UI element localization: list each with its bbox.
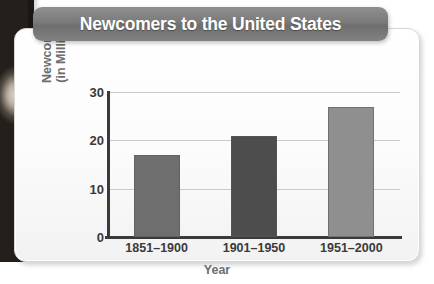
bar <box>134 155 180 237</box>
y-axis-tick-label: 20 <box>64 133 104 148</box>
bar <box>231 136 277 238</box>
y-axis-tick-label: 30 <box>64 85 104 100</box>
x-axis-tick-labels: 1851–19001901–19501951–2000 <box>108 241 400 261</box>
bar <box>328 107 374 238</box>
x-axis-tick-label: 1901–1950 <box>223 241 286 255</box>
chart-card: Newcomers (in Millions) 0102030 1851–190… <box>14 28 420 262</box>
chart-title-banner: Newcomers to the United States <box>33 7 388 41</box>
y-axis-tick-labels: 0102030 <box>62 92 104 237</box>
x-axis-tick-label: 1951–2000 <box>320 241 383 255</box>
y-axis-tick-label: 10 <box>64 181 104 196</box>
x-axis-title: Year <box>15 263 419 277</box>
x-axis-tick-label: 1851–1900 <box>125 241 188 255</box>
plot-area <box>108 92 400 237</box>
bar-group <box>108 92 400 237</box>
chart-title: Newcomers to the United States <box>80 14 341 35</box>
y-axis-tick-label: 0 <box>64 230 104 245</box>
chart-screenshot: Newcomers (in Millions) 0102030 1851–190… <box>0 0 434 284</box>
